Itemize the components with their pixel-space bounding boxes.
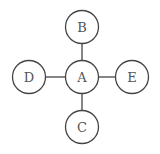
- node-b: B: [66, 11, 99, 44]
- node-b-label: B: [77, 20, 87, 35]
- node-e: E: [116, 61, 149, 94]
- node-c: C: [66, 111, 99, 144]
- node-a-label: A: [76, 70, 87, 85]
- node-e-label: E: [127, 70, 137, 85]
- node-d: D: [13, 61, 46, 94]
- node-d-label: D: [24, 70, 34, 85]
- node-a: A: [66, 61, 99, 94]
- graph-diagram: B D A E C: [0, 0, 160, 154]
- node-c-label: C: [77, 120, 87, 135]
